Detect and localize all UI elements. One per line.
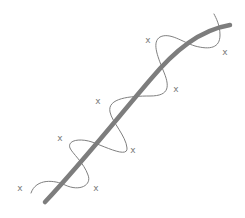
data-point-marker: x [173, 85, 178, 94]
smooth-fit-curve [45, 25, 230, 202]
data-point-marker: x [93, 184, 98, 193]
overfitting-diagram [0, 0, 245, 218]
data-point-marker: x [130, 146, 135, 155]
data-point-marker: x [17, 184, 22, 193]
data-point-marker: x [57, 134, 62, 143]
data-point-marker: x [145, 36, 150, 45]
data-point-marker: x [222, 48, 227, 57]
data-point-marker: x [95, 97, 100, 106]
